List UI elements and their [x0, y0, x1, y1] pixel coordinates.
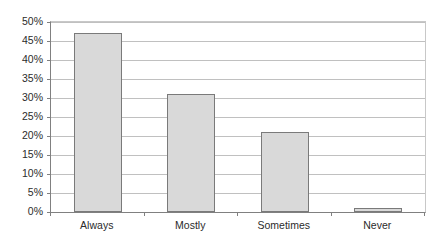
y-axis-tick-label: 40%: [22, 54, 43, 65]
y-axis-tick-label: 10%: [22, 168, 43, 179]
y-axis-tick-label: 25%: [22, 111, 43, 122]
plot-area: [50, 21, 426, 213]
y-axis-tick-label: 30%: [22, 92, 43, 103]
bars-group: [51, 22, 425, 212]
y-axis: 0%5%10%15%20%25%30%35%40%45%50%: [0, 0, 50, 243]
bar: [74, 33, 122, 212]
x-axis-tick-mark: [144, 212, 145, 216]
x-axis-category-label: Sometimes: [257, 219, 310, 231]
y-axis-tick-label: 5%: [28, 187, 43, 198]
bar: [261, 132, 309, 212]
y-axis-tick-label: 20%: [22, 130, 43, 141]
x-axis-tick-mark: [50, 212, 51, 216]
x-axis-category-label: Always: [80, 219, 113, 231]
x-axis: AlwaysMostlySometimesNever: [50, 212, 424, 243]
bar: [167, 94, 215, 212]
x-axis-tick-mark: [424, 212, 425, 216]
x-axis-tick-mark: [331, 212, 332, 216]
y-axis-tick-label: 50%: [22, 16, 43, 27]
x-axis-category-label: Mostly: [175, 219, 205, 231]
y-axis-tick-label: 15%: [22, 149, 43, 160]
x-axis-category-label: Never: [363, 219, 391, 231]
bar-chart: 0%5%10%15%20%25%30%35%40%45%50% AlwaysMo…: [0, 0, 442, 243]
y-axis-tick-label: 35%: [22, 73, 43, 84]
x-axis-tick-mark: [237, 212, 238, 216]
y-axis-tick-label: 45%: [22, 35, 43, 46]
y-axis-tick-label: 0%: [28, 206, 43, 217]
